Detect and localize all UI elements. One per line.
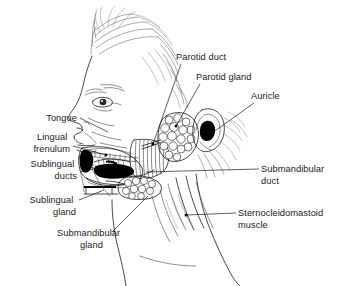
label-parotid-gland: Parotid gland [196,72,251,82]
anchor-sublingual-ducts [115,163,118,166]
label-sublingual-gland-line1: Sublingual [29,195,73,205]
label-submandibular-gland-line1: Submandibular [57,228,120,238]
anchor-parotid-duct [152,143,155,146]
label-sternocleidomastoid-line1: Sternocleidomastoid [238,208,323,218]
label-sublingual-ducts-line1: Sublingual [30,159,74,169]
label-lingual-frenulum-line2: frenulum [33,144,70,154]
anchor-sternocleidomastoid [185,214,188,217]
label-parotid-duct: Parotid duct [176,52,227,62]
anchor-parotid-gland [175,125,178,128]
label-sublingual-ducts-line2: ducts [55,171,78,181]
label-sternocleidomastoid-line2: muscle [238,220,268,230]
label-submandibular-gland-line2: gland [80,240,103,250]
label-auricle: Auricle [251,91,280,101]
label-lingual-frenulum: Lingual frenulum [33,132,70,154]
label-tongue: Tongue [46,113,77,123]
anatomy-figure: Tongue Lingual frenulum Sublingual ducts… [0,0,342,286]
label-submandibular-duct-line1: Submandibular [261,164,324,174]
anchor-lingual-frenulum [105,154,108,157]
label-submandibular-duct-line2: duct [261,176,279,186]
anatomy-illustration: Tongue Lingual frenulum Sublingual ducts… [0,0,342,286]
label-sublingual-gland-line2: gland [53,207,76,217]
label-lingual-frenulum-line1: Lingual [37,132,67,142]
